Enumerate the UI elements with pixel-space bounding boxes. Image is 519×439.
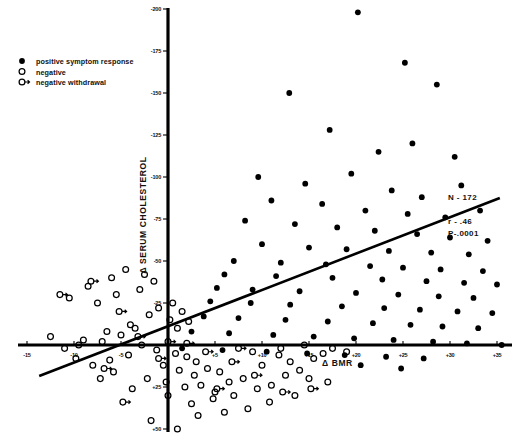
- filled-circle-marker: [259, 241, 265, 247]
- data-point: [475, 325, 481, 331]
- filled-circle-marker: [475, 325, 481, 331]
- filled-circle-marker: [270, 332, 276, 338]
- filled-circle-marker: [273, 273, 279, 279]
- data-point: [452, 154, 458, 160]
- filled-circle-marker: [489, 310, 495, 316]
- y-tick-label: +25: [152, 384, 161, 390]
- data-point: [386, 248, 392, 254]
- data-point: [231, 258, 237, 264]
- data-point: [286, 90, 292, 96]
- filled-circle-marker: [255, 174, 261, 180]
- filled-circle-marker: [477, 208, 483, 214]
- filled-circle-marker: [334, 225, 340, 231]
- y-tick-label: -150: [151, 90, 161, 96]
- data-point: [283, 317, 289, 323]
- filled-circle-marker: [358, 362, 364, 368]
- filled-circle-marker: [494, 282, 500, 288]
- filled-circle-marker: [402, 60, 408, 66]
- data-point: [319, 201, 325, 207]
- filled-circle-marker: [214, 285, 220, 291]
- data-point: [353, 290, 359, 296]
- data-point: [334, 225, 340, 231]
- filled-circle-marker: [376, 149, 382, 155]
- filled-circle-marker: [458, 183, 464, 189]
- data-point: [311, 334, 317, 340]
- data-point: [398, 366, 404, 372]
- data-point: [330, 275, 336, 281]
- y-tick-label: -50: [154, 258, 161, 264]
- legend-label-2: negative withdrawal: [36, 78, 106, 87]
- filled-circle-marker: [351, 335, 357, 341]
- plot-canvas: -15-10-5+5+10+15+20+25+30+35 -200-175-15…: [0, 0, 519, 439]
- y-tick-label: -200: [151, 6, 161, 12]
- data-point: [383, 354, 389, 360]
- filled-circle-marker: [434, 82, 440, 88]
- y-tick-label: -100: [151, 174, 161, 180]
- data-point: [214, 285, 220, 291]
- filled-circle-marker: [414, 231, 420, 237]
- data-point: [405, 211, 411, 217]
- filled-circle-marker: [410, 141, 416, 147]
- filled-circle-marker: [421, 356, 427, 362]
- filled-circle-marker: [236, 315, 242, 321]
- filled-circle-marker: [372, 228, 378, 234]
- filled-circle-marker: [189, 329, 195, 335]
- filled-circle-marker: [207, 298, 213, 304]
- filled-circle-marker: [248, 300, 254, 306]
- data-point: [344, 246, 350, 252]
- data-point: [273, 273, 279, 279]
- x-tick-label: -5: [119, 352, 124, 358]
- data-point: [438, 267, 444, 273]
- filled-circle-marker: [201, 314, 207, 320]
- data-point: [434, 82, 440, 88]
- data-point: [269, 198, 275, 204]
- filled-circle-marker: [306, 245, 312, 251]
- data-point: [248, 300, 254, 306]
- filled-circle-marker: [264, 349, 270, 355]
- data-point: [381, 305, 387, 311]
- filled-circle-marker: [452, 154, 458, 160]
- filled-circle-marker: [292, 221, 298, 227]
- data-point: [458, 183, 464, 189]
- data-point: [485, 238, 491, 244]
- data-point: [292, 221, 298, 227]
- filled-circle-marker: [398, 366, 404, 372]
- data-point: [255, 174, 261, 180]
- data-point: [402, 60, 408, 66]
- data-point: [391, 337, 397, 343]
- data-point: [222, 272, 228, 278]
- data-point: [471, 295, 477, 301]
- data-point: [367, 263, 373, 269]
- legend-label-0: positive symptom response: [36, 57, 134, 66]
- data-point: [259, 241, 265, 247]
- data-point: [417, 307, 423, 313]
- filled-circle-marker: [471, 295, 477, 301]
- data-point: [189, 329, 195, 335]
- filled-circle-marker: [220, 347, 226, 353]
- filled-circle-marker: [353, 290, 359, 296]
- filled-circle-marker: [424, 278, 430, 284]
- data-point: [430, 339, 436, 345]
- filled-circle-marker: [330, 275, 336, 281]
- data-point: [201, 314, 207, 320]
- filled-circle-marker: [400, 265, 406, 271]
- filled-circle-marker: [438, 267, 444, 273]
- filled-circle-marker: [363, 208, 369, 214]
- filled-circle-marker: [395, 292, 401, 298]
- filled-circle-marker: [367, 263, 373, 269]
- filled-circle-marker: [283, 317, 289, 323]
- filled-circle-marker: [250, 287, 256, 293]
- filled-circle-marker: [325, 319, 331, 325]
- y-tick-label: -125: [151, 132, 161, 138]
- data-point: [351, 335, 357, 341]
- filled-circle-marker: [464, 340, 470, 346]
- x-tick-label: +5: [212, 352, 218, 358]
- data-point: [363, 208, 369, 214]
- filled-circle-marker: [419, 194, 425, 200]
- data-point: [389, 188, 395, 194]
- data-point: [428, 250, 434, 256]
- filled-circle-marker: [19, 58, 25, 64]
- filled-circle-marker: [499, 342, 505, 348]
- filled-circle-marker: [408, 322, 414, 328]
- data-point: [287, 302, 293, 308]
